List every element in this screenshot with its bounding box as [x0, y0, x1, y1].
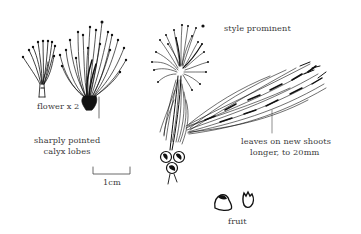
- illustration-drawings: [0, 0, 361, 234]
- fruit-label: fruit: [228, 216, 247, 228]
- leaves-label-line2: longer, to 20mm: [250, 147, 319, 159]
- small-flower-drawing: [23, 41, 55, 97]
- scale-bar-drawing: [93, 167, 130, 174]
- fruits-drawing: [215, 192, 254, 210]
- leaves-label-line1: leaves on new shoots: [241, 136, 331, 148]
- flowering-branch-drawing: [152, 25, 208, 184]
- scale-bar-label: 1cm: [103, 177, 121, 189]
- flower-label: flower x 2: [37, 101, 79, 113]
- style-label: style prominent: [224, 23, 291, 35]
- calyx-label-line2: calyx lobes: [34, 146, 100, 158]
- botanical-figure: flower x 2 sharply pointed calyx lobes 1…: [0, 0, 361, 234]
- large-flower-anthers: [59, 21, 127, 74]
- leafy-shoot-drawing: [186, 62, 326, 134]
- calyx-label-line1: sharply pointed: [34, 135, 100, 147]
